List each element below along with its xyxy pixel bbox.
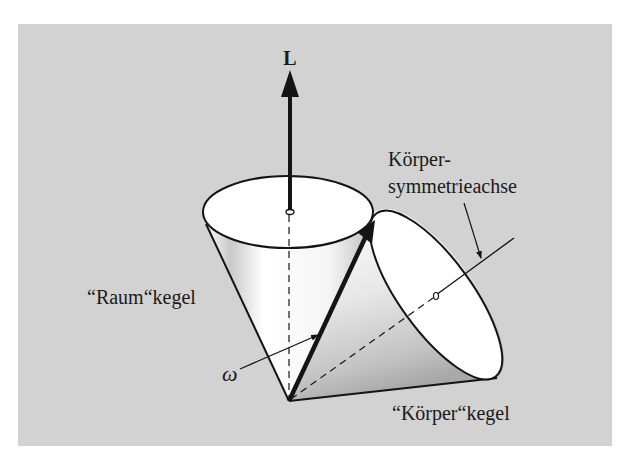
label-body-axis-line2: symmetrieachse [388,175,517,198]
label-body-cone: “Körper“kegel [392,402,510,425]
label-body-axis-line1: Körper- [388,148,451,171]
label-angular-momentum: L [283,47,296,69]
precession-cones-diagram: L Körper- symmetrieachse “Raum“kegel ω “… [0,0,636,464]
label-angular-velocity: ω [222,361,238,386]
label-space-cone: “Raum“kegel [87,286,196,309]
